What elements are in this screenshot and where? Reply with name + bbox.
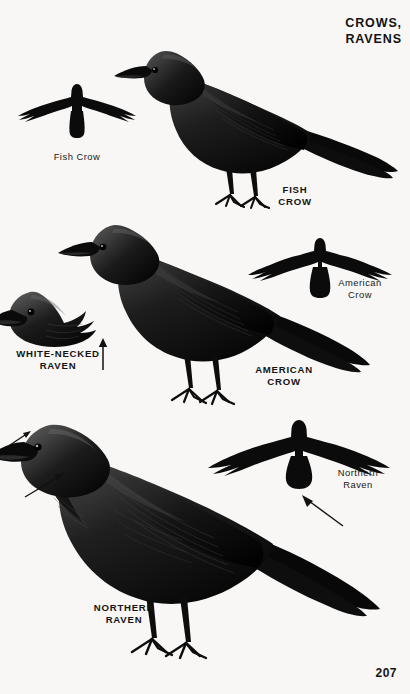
label-white-necked-raven: WHITE-NECKED RAVEN bbox=[6, 348, 110, 372]
illustration-white-necked-raven-head bbox=[0, 284, 108, 352]
raven-bill-arrow bbox=[6, 430, 32, 452]
label-american-crow-perched: AMERICAN CROW bbox=[232, 364, 336, 388]
field-guide-plate-page: CROWS, RAVENS Fish Crow bbox=[0, 0, 410, 694]
illustration-northern-raven-perched bbox=[0, 390, 388, 672]
raven-hackles-arrow bbox=[24, 472, 66, 502]
white-necked-raven-neck-arrow bbox=[96, 338, 110, 374]
label-northern-raven-perched: NORTHERN RAVEN bbox=[66, 602, 182, 626]
page-number: 207 bbox=[375, 666, 397, 680]
